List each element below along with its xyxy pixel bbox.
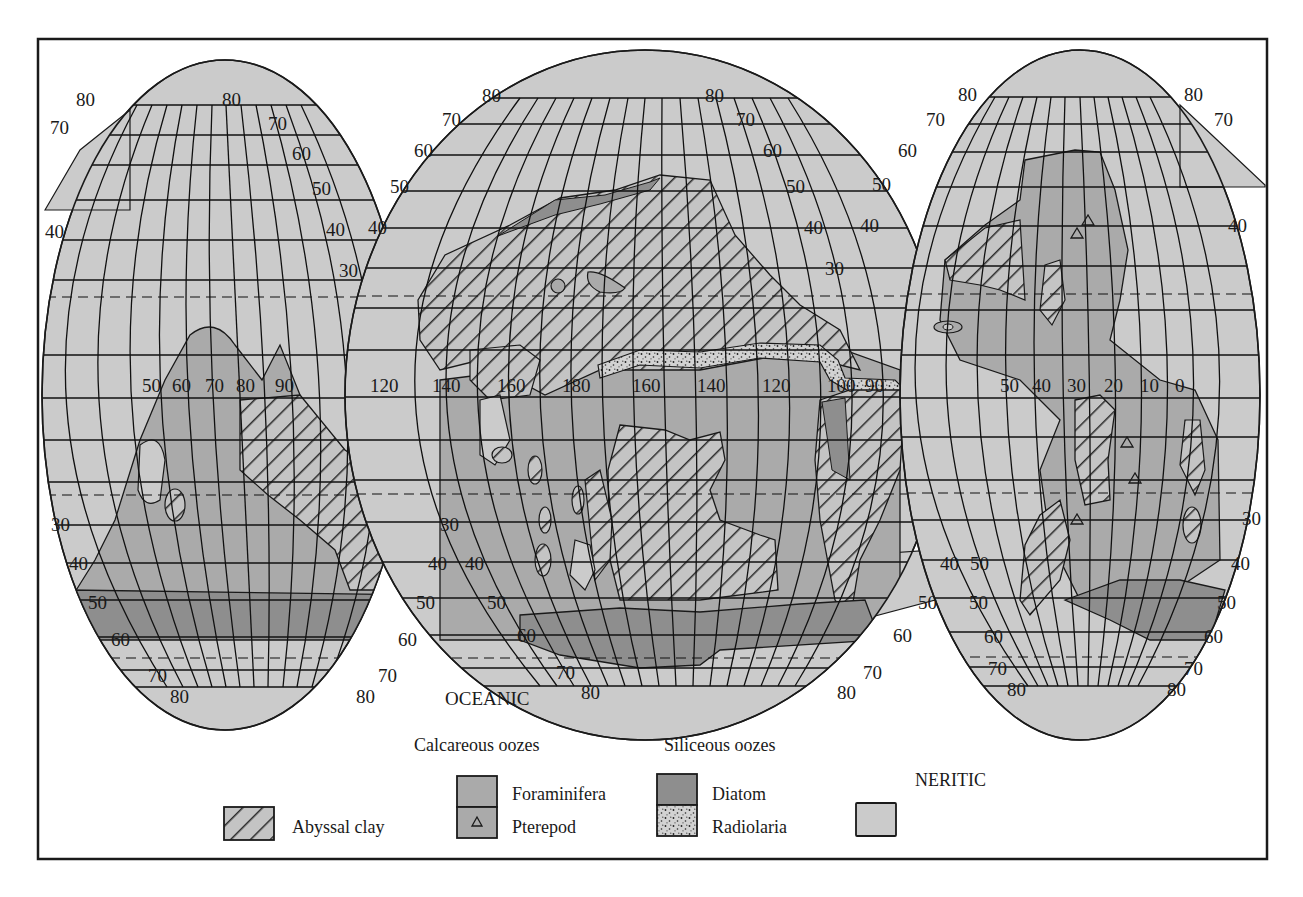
svg-text:40: 40 <box>804 217 823 238</box>
legend: Calcareous oozes Siliceous oozes NERITIC… <box>224 735 986 840</box>
svg-text:70: 70 <box>863 662 882 683</box>
svg-text:40: 40 <box>326 219 345 240</box>
svg-text:70: 70 <box>268 113 287 134</box>
svg-text:30: 30 <box>51 514 70 535</box>
legend-label-radiolaria: Radiolaria <box>712 817 787 837</box>
svg-text:50: 50 <box>416 592 435 613</box>
svg-text:60: 60 <box>172 375 191 396</box>
legend-swatch-neritic <box>856 803 896 836</box>
svg-text:70: 70 <box>205 375 224 396</box>
svg-text:50: 50 <box>312 178 331 199</box>
svg-text:50: 50 <box>970 553 989 574</box>
svg-text:70: 70 <box>926 109 945 130</box>
svg-text:30: 30 <box>1067 375 1086 396</box>
svg-text:70: 70 <box>556 662 575 683</box>
svg-text:70: 70 <box>736 109 755 130</box>
svg-text:120: 120 <box>762 375 791 396</box>
svg-text:50: 50 <box>1217 592 1236 613</box>
svg-text:40: 40 <box>45 221 64 242</box>
legend-swatch-abyssal-clay <box>224 807 274 840</box>
svg-text:60: 60 <box>984 626 1003 647</box>
svg-text:90: 90 <box>865 375 884 396</box>
svg-text:60: 60 <box>414 140 433 161</box>
svg-text:70: 70 <box>988 658 1007 679</box>
svg-text:50: 50 <box>487 592 506 613</box>
svg-text:80: 80 <box>170 686 189 707</box>
svg-text:80: 80 <box>356 686 375 707</box>
svg-text:70: 70 <box>378 665 397 686</box>
svg-text:40: 40 <box>940 553 959 574</box>
svg-text:80: 80 <box>76 89 95 110</box>
svg-text:50: 50 <box>918 592 937 613</box>
svg-text:40: 40 <box>368 217 387 238</box>
svg-text:100: 100 <box>827 375 856 396</box>
legend-swatch-radiolaria <box>657 805 697 836</box>
svg-text:80: 80 <box>958 84 977 105</box>
svg-text:80: 80 <box>705 85 724 106</box>
svg-text:30: 30 <box>339 260 358 281</box>
svg-text:10: 10 <box>1140 375 1159 396</box>
svg-text:40: 40 <box>465 553 484 574</box>
svg-text:70: 70 <box>50 117 69 138</box>
svg-text:60: 60 <box>517 625 536 646</box>
svg-text:160: 160 <box>632 375 661 396</box>
svg-text:140: 140 <box>697 375 726 396</box>
svg-text:60: 60 <box>1204 626 1223 647</box>
svg-text:50: 50 <box>1000 375 1019 396</box>
legend-label-diatom: Diatom <box>712 784 766 804</box>
svg-text:80: 80 <box>1184 84 1203 105</box>
legend-swatch-diatom <box>657 774 697 805</box>
svg-text:40: 40 <box>428 553 447 574</box>
svg-text:80: 80 <box>1007 679 1026 700</box>
svg-text:70: 70 <box>442 109 461 130</box>
svg-text:70: 70 <box>1214 109 1233 130</box>
svg-text:60: 60 <box>398 629 417 650</box>
svg-text:180: 180 <box>562 375 591 396</box>
svg-text:30: 30 <box>440 514 459 535</box>
svg-text:40: 40 <box>69 553 88 574</box>
svg-text:60: 60 <box>898 140 917 161</box>
svg-text:50: 50 <box>786 176 805 197</box>
svg-text:90: 90 <box>275 375 294 396</box>
svg-text:60: 60 <box>893 625 912 646</box>
svg-text:60: 60 <box>111 629 130 650</box>
svg-text:40: 40 <box>860 215 879 236</box>
svg-text:60: 60 <box>292 143 311 164</box>
svg-text:70: 70 <box>1184 658 1203 679</box>
svg-text:40: 40 <box>1032 375 1051 396</box>
svg-text:120: 120 <box>370 375 399 396</box>
svg-text:40: 40 <box>1231 553 1250 574</box>
svg-text:80: 80 <box>581 682 600 703</box>
svg-text:30: 30 <box>825 258 844 279</box>
svg-text:50: 50 <box>142 375 161 396</box>
legend-heading-calcareous: Calcareous oozes <box>414 735 539 755</box>
ocean-sediment-map-figure: 8080 7070 60 50 4040 30 3030 4040 5050 6… <box>0 0 1303 897</box>
legend-heading-neritic: NERITIC <box>915 770 986 790</box>
legend-label-pterepod: Pterepod <box>512 817 576 837</box>
svg-text:20: 20 <box>1104 375 1123 396</box>
svg-text:30: 30 <box>1242 508 1261 529</box>
svg-text:80: 80 <box>236 375 255 396</box>
legend-heading-siliceous: Siliceous oozes <box>664 735 775 755</box>
svg-text:60: 60 <box>763 140 782 161</box>
svg-text:50: 50 <box>390 176 409 197</box>
svg-text:50: 50 <box>88 592 107 613</box>
svg-text:0: 0 <box>1175 375 1185 396</box>
svg-text:140: 140 <box>432 375 461 396</box>
svg-text:50: 50 <box>969 592 988 613</box>
svg-text:40: 40 <box>1228 215 1247 236</box>
legend-label-abyssal-clay: Abyssal clay <box>292 817 384 837</box>
svg-text:80: 80 <box>837 682 856 703</box>
legend-swatch-pterepod <box>457 807 497 838</box>
svg-text:80: 80 <box>482 85 501 106</box>
svg-text:50: 50 <box>872 174 891 195</box>
svg-text:160: 160 <box>497 375 526 396</box>
svg-text:70: 70 <box>148 665 167 686</box>
svg-text:80: 80 <box>1167 679 1186 700</box>
legend-swatch-foraminifera <box>457 776 497 807</box>
oceanic-label: OCEANIC <box>445 688 529 709</box>
svg-text:80: 80 <box>222 89 241 110</box>
legend-label-foraminifera: Foraminifera <box>512 784 606 804</box>
